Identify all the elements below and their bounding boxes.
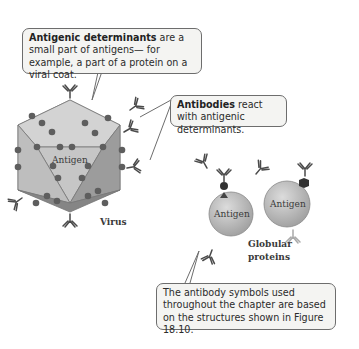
determinant-dot-1 [220,182,228,190]
globular-protein-2: Antigen [251,160,312,243]
callout-text: The antibody symbols used throughout the… [163,287,326,335]
globular-label: Globular [248,239,292,249]
callout-antibodies: Antibodies react with antigenic determin… [170,95,287,127]
virus-icosahedron: Antigen [15,100,126,212]
virus-label: Virus [99,217,127,227]
antigen-label-virus: Antigen [51,155,88,165]
proteins-label: proteins [248,252,290,262]
callout-antibody-symbols: The antibody symbols used throughout the… [156,283,336,330]
callout-bold: Antigenic determinants [29,32,157,43]
callout-antigenic-determinants: Antigenic determinants are a small part … [22,28,202,74]
antigen-label-sphere-1: Antigen [213,209,250,219]
callout-bold: Antibodies [177,99,235,110]
globular-protein-1: Antigen [194,153,253,264]
antigen-label-sphere-2: Antigen [269,199,306,209]
